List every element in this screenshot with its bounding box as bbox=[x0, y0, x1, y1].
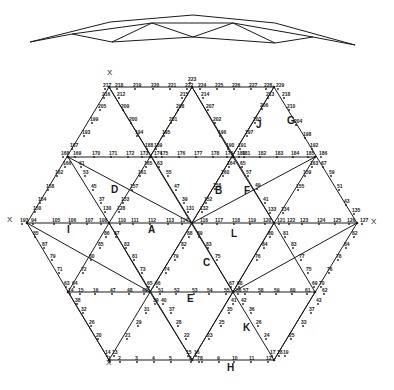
node-label: 155 bbox=[296, 183, 305, 189]
node-label: 65 bbox=[147, 280, 153, 286]
node-dot bbox=[79, 293, 81, 295]
node-label: 134 bbox=[281, 206, 290, 212]
node-dot bbox=[169, 88, 171, 90]
node-dot bbox=[137, 325, 139, 327]
node-dot bbox=[269, 236, 271, 238]
node-dot bbox=[170, 361, 172, 363]
node-dot bbox=[84, 175, 86, 177]
node-label: 186 bbox=[319, 150, 328, 156]
node-dot bbox=[111, 293, 113, 295]
node-label: 168 bbox=[61, 150, 70, 156]
node-dot bbox=[320, 156, 322, 158]
node-label: 6 bbox=[189, 355, 192, 361]
node-label: 208 bbox=[176, 103, 185, 109]
node-dot bbox=[246, 135, 248, 137]
node-label: 79 bbox=[50, 253, 56, 259]
node-label: 212 bbox=[117, 91, 126, 97]
node-dot bbox=[302, 325, 304, 327]
node-label: 67 bbox=[229, 280, 235, 286]
node-dot bbox=[190, 361, 192, 363]
node-dot bbox=[263, 247, 265, 249]
node-dot bbox=[238, 156, 240, 158]
node-label: 178 bbox=[211, 150, 220, 156]
grid-vertex bbox=[67, 156, 70, 159]
node-dot bbox=[275, 293, 277, 295]
zone-label-b: B bbox=[215, 185, 222, 196]
node-dot bbox=[122, 202, 124, 204]
node-label: 181 bbox=[242, 150, 251, 156]
node-label: 24 bbox=[264, 332, 270, 338]
node-dot bbox=[295, 124, 297, 126]
node-dot bbox=[202, 97, 204, 99]
node-dot bbox=[259, 293, 261, 295]
node-dot bbox=[128, 293, 130, 295]
node-dot bbox=[304, 175, 306, 177]
node-label: 177 bbox=[194, 150, 203, 156]
node-dot bbox=[161, 156, 163, 158]
node-dot bbox=[345, 247, 347, 249]
node-label: 216 bbox=[102, 91, 111, 97]
node-label: 152 bbox=[204, 196, 213, 202]
node-dot bbox=[178, 156, 180, 158]
node-label: 39 bbox=[182, 196, 188, 202]
node-label: 56 bbox=[236, 287, 242, 293]
node-dot bbox=[177, 325, 179, 327]
node-dot bbox=[232, 303, 234, 305]
node-label: 64 bbox=[72, 280, 78, 286]
node-label: 166 bbox=[63, 160, 72, 166]
node-label: 158 bbox=[46, 183, 55, 189]
node-label: 205 bbox=[98, 103, 107, 109]
node-dot bbox=[243, 156, 245, 158]
node-label: 193 bbox=[20, 217, 29, 223]
node-dot bbox=[100, 223, 102, 225]
node-label: 31 bbox=[144, 306, 150, 312]
node-dot bbox=[233, 223, 235, 225]
node-label: 9 bbox=[217, 355, 220, 361]
node-dot bbox=[132, 223, 134, 225]
node-label: 220 bbox=[151, 82, 160, 88]
node-dot bbox=[104, 88, 106, 90]
node-dot bbox=[264, 223, 266, 225]
node-dot bbox=[284, 236, 286, 238]
node-dot bbox=[152, 88, 154, 90]
node-label: 12 bbox=[266, 355, 272, 361]
node-label: 227 bbox=[249, 82, 258, 88]
node-label: 16 bbox=[93, 287, 99, 293]
node-label: 89 bbox=[197, 230, 203, 236]
grid-vertex bbox=[191, 222, 194, 225]
node-label: 197 bbox=[245, 129, 254, 135]
node-label: 123 bbox=[300, 217, 309, 223]
node-label: 37 bbox=[309, 306, 315, 312]
node-dot bbox=[278, 223, 280, 225]
node-dot bbox=[264, 202, 266, 204]
node-dot bbox=[86, 223, 88, 225]
node-dot bbox=[113, 355, 115, 357]
node-label: 214 bbox=[201, 91, 210, 97]
node-label: 194 bbox=[135, 129, 144, 135]
node-label: 4 bbox=[152, 355, 155, 361]
node-dot bbox=[250, 312, 252, 314]
node-label: 105 bbox=[52, 217, 61, 223]
node-label: 163 bbox=[310, 160, 319, 166]
node-dot bbox=[259, 156, 261, 158]
node-label: 84 bbox=[262, 241, 268, 247]
grid-member bbox=[233, 157, 274, 223]
node-dot bbox=[233, 88, 235, 90]
grid-member bbox=[68, 157, 109, 223]
node-dot bbox=[83, 135, 85, 137]
node-dot bbox=[244, 293, 246, 295]
node-label: 160 bbox=[221, 169, 230, 175]
node-dot bbox=[94, 293, 96, 295]
grid-vertex bbox=[232, 291, 235, 294]
node-dot bbox=[56, 175, 58, 177]
node-dot bbox=[182, 247, 184, 249]
node-label: 130 bbox=[103, 205, 112, 211]
node-label: 75 bbox=[215, 253, 221, 259]
node-label: 55 bbox=[166, 169, 172, 175]
node-label: 204 bbox=[294, 118, 303, 124]
zone-label-i: I bbox=[67, 224, 70, 235]
node-label: 87 bbox=[114, 230, 120, 236]
node-dot bbox=[47, 189, 49, 191]
node-dot bbox=[207, 109, 209, 111]
node-dot bbox=[167, 175, 169, 177]
